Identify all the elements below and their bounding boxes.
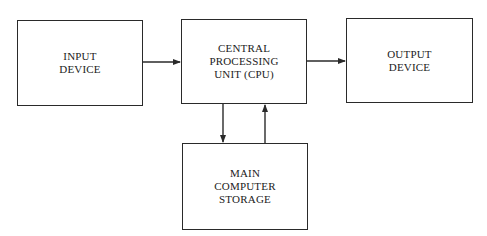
- cpu-label: CENTRAL PROCESSING UNIT (CPU): [209, 42, 278, 81]
- input-device-box: INPUT DEVICE: [17, 20, 143, 106]
- main-storage-label: MAIN COMPUTER STORAGE: [214, 167, 276, 206]
- output-device-box: OUTPUT DEVICE: [346, 18, 473, 103]
- cpu-box: CENTRAL PROCESSING UNIT (CPU): [181, 19, 307, 104]
- input-device-label: INPUT DEVICE: [59, 50, 101, 76]
- main-storage-box: MAIN COMPUTER STORAGE: [182, 143, 308, 230]
- output-device-label: OUTPUT DEVICE: [387, 48, 432, 74]
